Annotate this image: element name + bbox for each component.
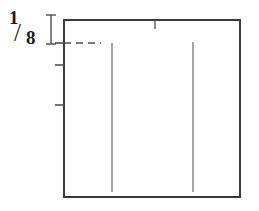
outline-rectangle: [64, 20, 240, 197]
i-beam-extent-marker: [46, 15, 56, 44]
left-axis-tick-group: [55, 43, 64, 105]
figure-root: 1 / 8: [0, 0, 259, 211]
figure-canvas: [0, 0, 259, 211]
outline-rectangle-path: [64, 20, 240, 197]
